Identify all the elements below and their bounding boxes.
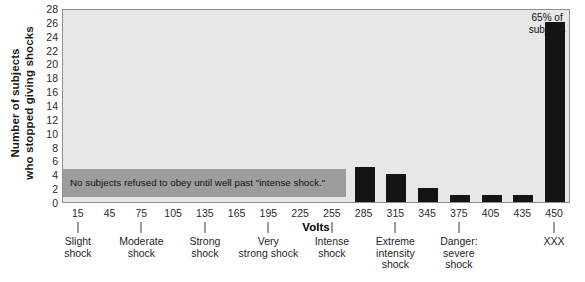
bar-375v: [450, 195, 470, 202]
x-axis-group-label-375: Danger:severeshock: [440, 236, 477, 271]
x-axis-group-label-line: Extreme: [376, 236, 415, 248]
x-axis-group-tick-450: [554, 222, 555, 233]
x-axis-group-label-line: Very: [239, 236, 299, 248]
x-axis-group-label-line: strong shock: [239, 248, 299, 260]
bar-285v: [355, 167, 375, 202]
y-axis-tick-label: 28: [38, 4, 58, 15]
x-axis-group-label-line: shock: [315, 248, 349, 260]
milgram-shock-bar-chart: Number of subjects who stopped giving sh…: [0, 0, 585, 282]
y-axis-tick-label: 2: [38, 184, 58, 195]
bar-345v: [418, 188, 438, 202]
x-axis-tick-label-450: 450: [545, 208, 563, 219]
bar-435v: [513, 195, 533, 202]
x-axis-tick-label-255: 255: [323, 208, 341, 219]
x-axis-group-tick-195: [268, 222, 269, 233]
y-axis-tick-label: 20: [38, 59, 58, 70]
annotation-note-text: No subjects refused to obey until well p…: [70, 178, 325, 188]
y-axis-tick-label: 18: [38, 73, 58, 84]
x-axis-group-label-line: shock: [440, 259, 477, 271]
x-axis-group-label-line: shock: [376, 259, 415, 271]
x-axis-group-tick-255: [331, 222, 332, 233]
x-axis-group-label-line: Moderate: [119, 236, 163, 248]
x-axis: Volts 1545751051351651952252552853153453…: [62, 203, 570, 282]
x-axis-tick-label-375: 375: [450, 208, 468, 219]
x-axis-group-label-315: Extremeintensityshock: [376, 236, 415, 271]
x-axis-group-label-line: shock: [119, 248, 163, 260]
x-axis-tick-label-165: 165: [228, 208, 246, 219]
x-axis-group-tick-315: [395, 222, 396, 233]
x-axis-tick-label-105: 105: [164, 208, 182, 219]
x-axis-group-tick-15: [77, 222, 78, 233]
x-axis-group-label-15: Slightshock: [64, 236, 91, 259]
y-axis-tick-label: 14: [38, 101, 58, 112]
y-axis-tick-label: 24: [38, 32, 58, 43]
x-axis-tick-label-15: 15: [72, 208, 84, 219]
x-axis-tick-label-225: 225: [291, 208, 309, 219]
y-axis-tick-labels: 0246810121416182022242628: [38, 0, 58, 282]
annotation-note-box: No subjects refused to obey until well p…: [63, 169, 346, 198]
x-axis-group-label-195: Verystrong shock: [239, 236, 299, 259]
bar-405v: [482, 195, 502, 202]
x-axis-tick-label-285: 285: [355, 208, 373, 219]
y-axis-tick-label: 16: [38, 87, 58, 98]
x-axis-group-tick-135: [204, 222, 205, 233]
x-axis-group-label-line: Danger:: [440, 236, 477, 248]
y-axis-title-line-2: who stopped giving shocks: [22, 26, 36, 179]
x-axis-tick-label-135: 135: [196, 208, 214, 219]
y-axis-tick-label: 6: [38, 156, 58, 167]
annotation-callout: 65% of subjects: [487, 12, 585, 35]
x-axis-group-label-line: Strong: [189, 236, 220, 248]
annotation-callout-line-2: subjects: [487, 24, 585, 36]
x-axis-tick-label-75: 75: [136, 208, 148, 219]
x-axis-tick-label-45: 45: [104, 208, 116, 219]
y-axis-title-line-1: Number of subjects: [8, 26, 22, 179]
bar-450v: [545, 22, 565, 202]
x-axis-group-tick-375: [458, 222, 459, 233]
x-axis-group-label-line: XXX: [544, 236, 565, 248]
x-axis-group-label-450: XXX: [544, 236, 565, 248]
y-axis-tick-label: 10: [38, 129, 58, 140]
plot-inner: No subjects refused to obey until well p…: [63, 10, 569, 202]
y-axis-tick-label: 22: [38, 46, 58, 57]
y-axis-tick-label: 4: [38, 170, 58, 181]
x-axis-group-tick-75: [141, 222, 142, 233]
bar-315v: [386, 174, 406, 202]
x-axis-group-label-255: Intenseshock: [315, 236, 349, 259]
x-axis-group-label-line: Slight: [64, 236, 91, 248]
x-axis-group-label-line: shock: [189, 248, 220, 260]
plot-area: No subjects refused to obey until well p…: [62, 9, 570, 203]
x-axis-group-label-line: shock: [64, 248, 91, 260]
x-axis-group-label-75: Moderateshock: [119, 236, 163, 259]
x-axis-title: Volts: [302, 221, 329, 233]
y-axis-tick-label: 12: [38, 115, 58, 126]
y-axis-tick-label: 8: [38, 143, 58, 154]
x-axis-tick-label-405: 405: [482, 208, 500, 219]
x-axis-tick-label-315: 315: [387, 208, 405, 219]
x-axis-tick-label-345: 345: [418, 208, 436, 219]
x-axis-group-label-line: Intense: [315, 236, 349, 248]
y-axis-tick-label: 26: [38, 18, 58, 29]
annotation-callout-line-1: 65% of: [487, 12, 585, 24]
x-axis-group-label-135: Strongshock: [189, 236, 220, 259]
x-axis-tick-label-195: 195: [260, 208, 278, 219]
y-axis-tick-label: 0: [38, 198, 58, 209]
x-axis-tick-label-435: 435: [514, 208, 532, 219]
